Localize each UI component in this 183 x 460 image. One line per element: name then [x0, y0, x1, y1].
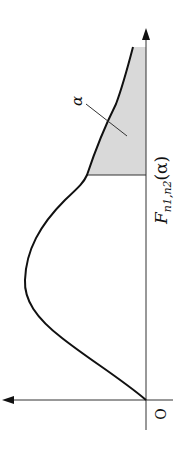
svg-text:Fn1,n2(α): Fn1,n2(α) [151, 156, 174, 225]
f-distribution-diagram: α Fn1,n2(α) O [0, 0, 183, 460]
critical-value-label: Fn1,n2(α) [151, 156, 174, 225]
critical-value-subscript: n1,n2 [161, 181, 174, 213]
origin-label: O [153, 408, 169, 419]
y-axis-arrow-icon [2, 396, 14, 404]
x-axis-arrow-icon [142, 28, 150, 40]
shaded-tail-region [87, 47, 146, 175]
critical-value-arg: (α) [151, 156, 171, 181]
alpha-label: α [68, 96, 86, 106]
